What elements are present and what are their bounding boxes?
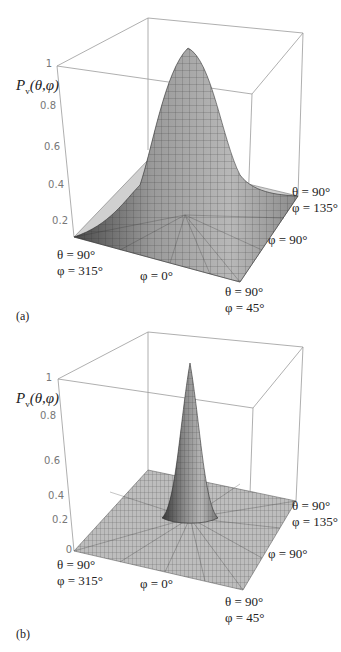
edge-label-front-a: φ = 0°	[140, 268, 173, 284]
z-tick-0.4: 0.4	[24, 179, 64, 190]
z-tick-0.8: 0.8	[16, 100, 56, 111]
corner-label-right-a: θ = 90°φ = 135°	[292, 184, 338, 216]
z-tick-0.6: 0.6	[20, 455, 60, 466]
corner-label-front-a: θ = 90°φ = 45°	[225, 284, 265, 316]
z-tick-0.6: 0.6	[20, 141, 60, 152]
surface-peak-mesh-b	[162, 363, 218, 523]
z-tick-0.4: 0.4	[24, 490, 64, 501]
z-tick-0.2: 0.2	[28, 215, 68, 226]
corner-label-right-b: θ = 90°φ = 135°	[292, 498, 338, 530]
surface-mesh-a	[74, 48, 298, 282]
z-tick-0.2: 0.2	[28, 514, 68, 525]
edge-label-right-b: φ = 90°	[268, 546, 308, 562]
panel-a: 1 0.8 0.6 0.4 0.2 Pv(θ,φ) θ = 90°φ = 315…	[0, 0, 341, 320]
corner-label-left-b: θ = 90°φ = 315°	[57, 557, 103, 589]
surface-plot-b	[0, 314, 341, 652]
edge-label-front-b: φ = 0°	[140, 576, 173, 592]
z-tick-1: 1	[12, 372, 52, 383]
panel-b: 1 0.8 0.6 0.4 0.2 0 Pv(θ,φ) θ = 90°φ = 3…	[0, 314, 341, 652]
z-axis-label-b: Pv(θ,φ)	[16, 390, 59, 409]
corner-label-front-b: θ = 90°φ = 45°	[225, 594, 265, 626]
z-tick-1: 1	[12, 58, 52, 69]
edge-label-right-a: φ = 90°	[268, 232, 308, 248]
z-axis-label-a: Pv(θ,φ)	[16, 77, 59, 96]
z-tick-0.8: 0.8	[16, 410, 56, 421]
z-tick-0: 0	[32, 544, 72, 555]
panel-tag-b: (b)	[16, 627, 30, 642]
corner-label-left-a: θ = 90°φ = 315°	[57, 247, 103, 279]
